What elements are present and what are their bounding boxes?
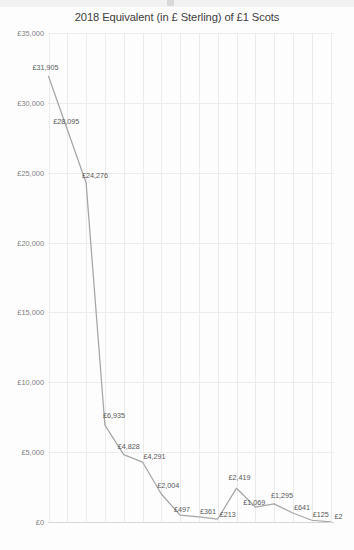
plot-area: 1250130013501400145015001550160016501700…: [48, 33, 334, 522]
data-point-label: £125: [313, 510, 329, 519]
data-point-label: £4,291: [144, 452, 166, 461]
y-axis-tick-label: £15,000: [0, 308, 44, 317]
data-point-label: £4,828: [118, 442, 140, 451]
chart-title: 2018 Equivalent (in £ Sterling) of £1 Sc…: [0, 11, 354, 23]
x-axis-line: [48, 522, 334, 523]
data-point-label: £2: [335, 512, 343, 521]
data-point-label: £641: [294, 503, 310, 512]
y-axis-tick-label: £0: [0, 518, 44, 527]
y-axis-tick-label: £35,000: [0, 29, 44, 38]
data-point-label: £1,069: [243, 498, 265, 507]
y-axis-tick-label: £20,000: [0, 239, 44, 248]
data-point-label: £28,095: [53, 117, 79, 126]
data-point-label: £213: [220, 510, 236, 519]
y-axis-tick-label: £5,000: [0, 448, 44, 457]
data-point-label: £6,935: [103, 411, 125, 420]
y-axis-tick-label: £30,000: [0, 99, 44, 108]
chart-container: 2018 Equivalent (in £ Sterling) of £1 Sc…: [0, 0, 354, 550]
data-point-label: £24,276: [82, 171, 108, 180]
y-axis-tick-label: £25,000: [0, 169, 44, 178]
y-axis-tick-label: £10,000: [0, 378, 44, 387]
data-point-label: £2,004: [157, 481, 179, 490]
data-point-label: £2,419: [229, 473, 251, 482]
data-point-label: £1,295: [271, 491, 293, 500]
window-top-strip: [0, 0, 354, 7]
data-point-label: £497: [174, 505, 190, 514]
data-point-label: £31,905: [33, 63, 59, 72]
line-series: [48, 33, 334, 522]
data-point-label: £361: [200, 507, 216, 516]
window-top-nub: [167, 0, 174, 6]
